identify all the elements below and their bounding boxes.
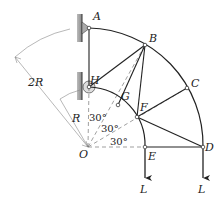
joint-f: [135, 115, 139, 119]
label-a: A: [92, 10, 101, 23]
label-b: B: [148, 32, 157, 45]
truss-diagram: A B C D E F G H O 2R R 30° 30° 30° L L: [0, 0, 222, 203]
angle-label-3: 30°: [110, 136, 128, 147]
joint-c: [185, 86, 189, 90]
dimension-arc-2r: [15, 29, 70, 57]
joint-b: [143, 43, 147, 47]
joint-g: [116, 103, 120, 107]
angle-label-1: 30°: [89, 112, 107, 123]
dimension-label-2r: 2R: [27, 76, 43, 89]
label-e: E: [147, 150, 156, 163]
label-h: H: [89, 74, 100, 87]
load-label-e: L: [139, 183, 147, 196]
label-g: G: [121, 90, 130, 103]
label-o: O: [79, 148, 88, 161]
label-d: D: [204, 141, 214, 154]
angle-label-2: 30°: [101, 123, 119, 134]
label-c: C: [191, 77, 200, 90]
joint-a: [87, 26, 91, 30]
wall-top: [77, 14, 82, 42]
wall-bottom: [77, 72, 82, 100]
joint-e: [143, 145, 147, 149]
dimension-label-r: R: [71, 112, 80, 125]
load-label-d: L: [197, 183, 205, 196]
label-f: F: [139, 101, 148, 114]
